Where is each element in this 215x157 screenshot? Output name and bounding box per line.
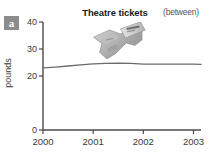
x-tick-label: 2000 — [32, 136, 53, 147]
y-tick-label: 30 — [27, 44, 37, 54]
data-series-line — [43, 63, 201, 68]
x-tick-label: 2003 — [183, 136, 204, 147]
y-axis-ticks: 0203040 — [27, 17, 43, 135]
y-tick-label: 40 — [27, 17, 37, 27]
chart-figure: a Theatre tickets (between) — [0, 0, 215, 157]
x-axis-ticks: 2000200120022003 — [32, 130, 204, 147]
y-tick-label: 0 — [32, 125, 37, 135]
y-tick-label: 20 — [27, 71, 37, 81]
x-tick-label: 2001 — [83, 136, 104, 147]
plot-area: 0203040 2000200120022003 — [0, 0, 215, 157]
x-tick-label: 2002 — [133, 136, 154, 147]
